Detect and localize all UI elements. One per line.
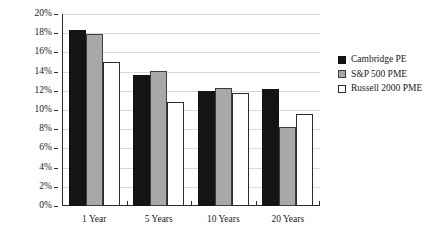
bar xyxy=(86,34,103,206)
category-separator xyxy=(191,201,192,206)
y-axis-tick-mark xyxy=(54,14,58,15)
y-axis-tick-mark xyxy=(54,187,58,188)
y-axis-tick-mark xyxy=(54,129,58,130)
legend-item[interactable]: Russell 2000 PME xyxy=(338,84,422,94)
bar xyxy=(103,62,120,206)
legend-item-label: Russell 2000 PME xyxy=(351,84,422,94)
y-axis-tick-mark xyxy=(54,206,58,207)
y-axis-tick-label: 14% xyxy=(35,67,52,77)
bar xyxy=(69,30,86,206)
x-axis-label: 10 Years xyxy=(191,208,256,230)
y-axis-tick-mark xyxy=(54,110,58,111)
bar-groups xyxy=(62,14,320,206)
bar xyxy=(262,89,279,206)
x-axis-label: 20 Years xyxy=(256,208,321,230)
bar xyxy=(167,102,184,206)
y-axis-tick-label: 18% xyxy=(35,28,52,38)
bar xyxy=(296,114,313,206)
bar-chart: 20%18%16%14%12%10%8%6%4%2%0% 1 Year5 Yea… xyxy=(0,0,432,244)
y-axis: 20%18%16%14%12%10%8%6%4%2%0% xyxy=(0,14,58,206)
legend-item[interactable]: S&P 500 PME xyxy=(338,70,422,80)
bar-group xyxy=(62,14,127,206)
legend-swatch-black-icon xyxy=(338,56,346,64)
y-axis-tick-mark xyxy=(54,148,58,149)
y-axis-tick-label: 8% xyxy=(39,124,52,134)
legend-swatch-white-icon xyxy=(338,85,346,93)
bar xyxy=(279,127,296,206)
y-axis-tick-mark xyxy=(54,91,58,92)
bar xyxy=(150,71,167,206)
legend-swatch-gray-icon xyxy=(338,70,346,78)
y-axis-tick-mark xyxy=(54,52,58,53)
x-axis-label: 1 Year xyxy=(62,208,127,230)
bar-group xyxy=(191,14,256,206)
legend-item-label: Cambridge PE xyxy=(351,55,407,65)
y-axis-tick-mark xyxy=(54,33,58,34)
legend-item-label: S&P 500 PME xyxy=(351,70,407,80)
y-axis-tick-label: 20% xyxy=(35,9,52,19)
y-axis-tick-label: 12% xyxy=(35,86,52,96)
y-axis-tick-label: 2% xyxy=(39,182,52,192)
y-axis-tick-label: 0% xyxy=(39,201,52,211)
x-axis-label: 5 Years xyxy=(127,208,192,230)
y-axis-tick-label: 16% xyxy=(35,48,52,58)
bar xyxy=(215,88,232,206)
bar-group xyxy=(127,14,192,206)
x-axis: 1 Year5 Years10 Years20 Years xyxy=(62,208,320,230)
category-separator xyxy=(319,201,320,206)
y-axis-tick-mark xyxy=(54,168,58,169)
legend-item[interactable]: Cambridge PE xyxy=(338,55,422,65)
category-separator xyxy=(127,201,128,206)
bar-group xyxy=(256,14,321,206)
bar xyxy=(232,93,249,206)
gridline xyxy=(63,206,320,207)
y-axis-tick-label: 10% xyxy=(35,105,52,115)
y-axis-tick-label: 4% xyxy=(39,163,52,173)
bar xyxy=(133,75,150,206)
bar xyxy=(198,91,215,206)
category-separator xyxy=(256,201,257,206)
y-axis-tick-mark xyxy=(54,72,58,73)
chart-legend: Cambridge PES&P 500 PMERussell 2000 PME xyxy=(338,55,422,94)
y-axis-tick-label: 6% xyxy=(39,144,52,154)
